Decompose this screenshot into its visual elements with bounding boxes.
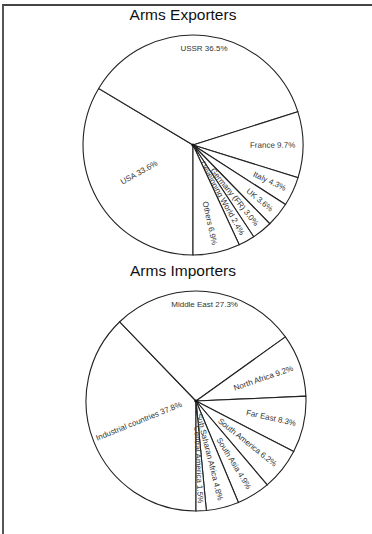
slice-label-france: France 9.7% bbox=[250, 141, 295, 150]
importers-pie: Industrial countries 37.8%Middle East 27… bbox=[86, 291, 306, 511]
slice-label-ussr: USSR 36.5% bbox=[180, 44, 227, 53]
slice-label-middle-east: Middle East 27.3% bbox=[171, 300, 238, 309]
pie-center-dot bbox=[191, 143, 194, 146]
exporters-pie: USA 33.6%USSR 36.5%France 9.7%Italy 4.3%… bbox=[83, 35, 303, 255]
pie-center-dot bbox=[194, 399, 197, 402]
